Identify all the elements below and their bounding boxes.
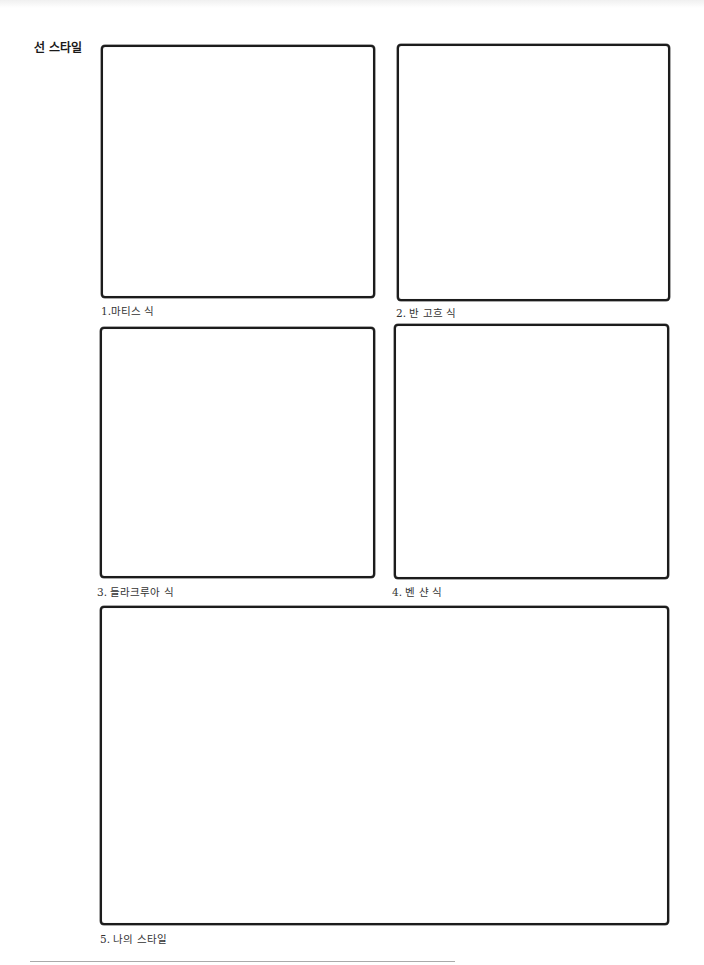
footer-rule: [30, 961, 455, 962]
drawing-box-5[interactable]: [100, 606, 669, 925]
page-top-edge: [0, 0, 704, 8]
drawing-box-4[interactable]: [394, 324, 669, 579]
panel-label-4: 4. 벤 샨 식: [392, 584, 442, 599]
panel-label-2: 2. 반 고흐 식: [396, 305, 456, 320]
drawing-box-3[interactable]: [100, 327, 375, 578]
panel-label-5: 5. 나의 스타일: [100, 931, 167, 946]
panel-label-1: 1.마티스 식: [101, 303, 154, 318]
panel-label-3: 3. 들라크루아 식: [97, 584, 174, 599]
drawing-box-2[interactable]: [397, 44, 670, 301]
section-title: 선 스타일: [34, 38, 82, 55]
drawing-box-1[interactable]: [101, 45, 375, 298]
